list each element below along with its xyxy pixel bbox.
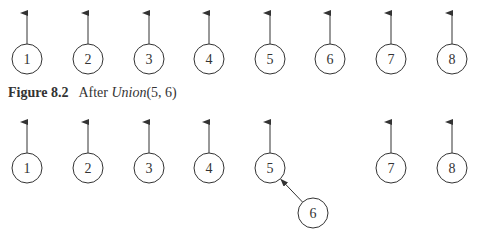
caption-text: After <box>78 85 111 100</box>
node-label: 5 <box>267 161 274 176</box>
node-label: 8 <box>449 161 456 176</box>
node-label: 4 <box>206 52 213 67</box>
node-6: 6 <box>281 180 328 228</box>
node-label: 8 <box>449 52 456 67</box>
figure-caption: Figure 8.2After Union(5, 6) <box>8 85 177 101</box>
node-label: 1 <box>24 52 31 67</box>
node-2: 2 <box>73 13 103 74</box>
node-3: 3 <box>134 13 164 74</box>
node-8: 8 <box>437 122 467 183</box>
node-label: 3 <box>146 161 153 176</box>
node-3: 3 <box>134 122 164 183</box>
node-label: 5 <box>267 52 274 67</box>
node-4: 4 <box>194 122 224 183</box>
node-2: 2 <box>73 122 103 183</box>
caption-args: (5, 6) <box>146 85 176 100</box>
node-7: 7 <box>376 13 406 74</box>
node-label: 1 <box>24 161 31 176</box>
node-label: 7 <box>388 52 395 67</box>
node-8: 8 <box>437 13 467 74</box>
node-label: 2 <box>85 161 92 176</box>
node-label: 4 <box>206 161 213 176</box>
forest-before-union: 12345678 <box>12 13 467 74</box>
node-label: 7 <box>388 161 395 176</box>
node-label: 6 <box>310 206 317 221</box>
node-6: 6 <box>315 13 345 74</box>
parent-pointer-arrow-icon <box>281 180 303 203</box>
node-1: 1 <box>12 13 42 74</box>
node-label: 3 <box>146 52 153 67</box>
node-5: 5 <box>255 13 285 74</box>
caption-function: Union <box>111 85 146 100</box>
node-4: 4 <box>194 13 224 74</box>
forest-after-union: 12345678 <box>12 122 467 228</box>
node-7: 7 <box>376 122 406 183</box>
figure-number: Figure 8.2 <box>8 85 68 100</box>
node-label: 2 <box>85 52 92 67</box>
node-label: 6 <box>327 52 334 67</box>
node-1: 1 <box>12 122 42 183</box>
node-5: 5 <box>255 122 285 183</box>
disjoint-set-diagram: 12345678 12345678 <box>0 0 482 239</box>
